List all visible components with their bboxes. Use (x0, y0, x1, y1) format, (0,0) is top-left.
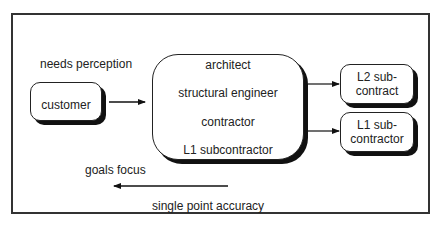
l2-subcontract-line1: L2 sub- (357, 70, 397, 84)
l2-subcontract-node: L2 sub- contract (340, 64, 414, 104)
l1-subcontractor-line2: contractor (350, 132, 403, 146)
l1-subcontractor-line1: L1 sub- (357, 118, 397, 132)
single-point-accuracy-label: single point accuracy (152, 199, 264, 213)
team-member-architect: architect (205, 58, 250, 72)
team-member-contractor: contractor (201, 115, 254, 129)
needs-perception-label: needs perception (40, 57, 132, 71)
customer-node: customer (30, 82, 102, 121)
goals-focus-label: goals focus (85, 163, 146, 177)
team-member-l1-subcontractor: L1 subcontractor (183, 143, 272, 157)
l2-subcontract-line2: contract (356, 84, 399, 98)
project-team-node: architect structural engineer contractor… (152, 54, 304, 160)
customer-label: customer (41, 98, 90, 112)
l1-subcontractor-node: L1 sub- contractor (340, 112, 414, 152)
team-member-structural-engineer: structural engineer (178, 86, 277, 100)
